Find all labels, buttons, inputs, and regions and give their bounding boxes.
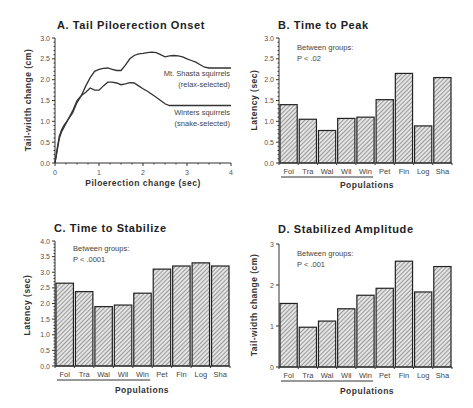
y-tick-label: 2.5 bbox=[40, 284, 50, 291]
x-tick-label: 2 bbox=[141, 169, 145, 176]
bar-pet bbox=[376, 100, 393, 163]
category-label: Wil bbox=[341, 371, 352, 380]
panel-a-line-chart: A. Tail Piloerection Onset Tail-width ch… bbox=[23, 19, 233, 188]
y-tick-label: 1.0 bbox=[40, 331, 50, 338]
panel-c-xlabel: Populations bbox=[115, 385, 169, 395]
category-label: Fol bbox=[283, 167, 294, 176]
category-label: Tra bbox=[302, 371, 314, 380]
y-tick-label: 2.0 bbox=[40, 300, 50, 307]
y-tick-label: 2.5 bbox=[40, 55, 50, 62]
x-tick-label: 0 bbox=[53, 169, 57, 176]
panel-c-bars: FolTraWalWilWinPetFinLogSha0.00.51.01.52… bbox=[40, 238, 230, 381]
bar-fin bbox=[395, 73, 412, 163]
panel-b-title: B. Time to Peak bbox=[278, 19, 369, 31]
panel-c-annotation-1: Between groups: bbox=[73, 244, 129, 253]
y-tick-label: 2.5 bbox=[264, 55, 274, 62]
bar-win bbox=[357, 117, 374, 163]
category-label: Fol bbox=[283, 371, 294, 380]
panel-c-title: C. Time to Stabilize bbox=[54, 222, 167, 234]
bar-sha bbox=[434, 78, 451, 163]
bar-tra bbox=[75, 292, 92, 366]
bar-win bbox=[357, 295, 374, 367]
y-tick-label: 1.5 bbox=[264, 97, 274, 104]
category-label: Fol bbox=[60, 370, 71, 379]
category-label: Fin bbox=[399, 167, 409, 176]
y-tick-label: 0 bbox=[270, 364, 274, 371]
panel-a-xlabel: Piloerection change (sec) bbox=[85, 178, 200, 188]
x-tick-label: 3 bbox=[185, 169, 189, 176]
y-tick-label: 2.0 bbox=[40, 76, 50, 83]
panel-b-annotation-1: Between groups: bbox=[297, 43, 353, 52]
panel-b-annotation-2: P < .02 bbox=[297, 54, 321, 63]
category-label: Pet bbox=[379, 167, 391, 176]
panel-c-bar-chart: C. Time to Stabilize Latency (sec) Popul… bbox=[22, 222, 230, 395]
x-tick-label: 4 bbox=[229, 169, 233, 176]
category-label: Fin bbox=[399, 371, 409, 380]
category-label: Wal bbox=[321, 371, 334, 380]
y-tick-label: 1.5 bbox=[40, 316, 50, 323]
series-label-shasta-1: Mt. Shasta squirrels bbox=[164, 69, 231, 78]
category-label: Sha bbox=[214, 370, 228, 379]
category-label: Wil bbox=[118, 370, 129, 379]
bar-fol bbox=[56, 283, 73, 366]
category-label: Log bbox=[195, 370, 208, 379]
bar-wil bbox=[338, 309, 355, 367]
panel-c-ylabel: Latency (sec) bbox=[22, 275, 32, 336]
panel-d-bar-chart: D. Stabilized Amplitude Tail-width chang… bbox=[249, 223, 452, 396]
bar-wal bbox=[95, 307, 112, 366]
figure: A. Tail Piloerection Onset Tail-width ch… bbox=[0, 0, 473, 408]
panel-d-annotation-2: P < .001 bbox=[297, 260, 325, 269]
y-tick-label: 0.0 bbox=[40, 363, 50, 370]
category-label: Win bbox=[136, 370, 149, 379]
bar-wil bbox=[114, 305, 131, 366]
bar-log bbox=[415, 126, 432, 163]
category-label: Sha bbox=[436, 167, 450, 176]
series-label-winters-1: Winters squirrels bbox=[174, 108, 230, 117]
panel-a-title: A. Tail Piloerection Onset bbox=[57, 19, 205, 31]
y-tick-label: 3.5 bbox=[40, 253, 50, 260]
category-label: Win bbox=[359, 371, 372, 380]
bar-wal bbox=[318, 131, 335, 164]
bar-pet bbox=[153, 269, 170, 366]
y-tick-label: 3.0 bbox=[264, 35, 274, 42]
panel-b-ylabel: Latency (sec) bbox=[249, 70, 259, 131]
panel-d-title: D. Stabilized Amplitude bbox=[278, 223, 414, 235]
bar-sha bbox=[434, 267, 451, 367]
bar-fin bbox=[395, 261, 412, 367]
category-label: Win bbox=[359, 167, 372, 176]
y-tick-label: 2.0 bbox=[264, 76, 274, 83]
x-tick-label: 1 bbox=[97, 169, 101, 176]
y-tick-label: 0.5 bbox=[264, 139, 274, 146]
bar-fol bbox=[280, 303, 297, 367]
y-tick-label: 0.0 bbox=[40, 160, 50, 167]
bar-sha bbox=[212, 266, 229, 366]
y-tick-label: 0.5 bbox=[40, 347, 50, 354]
category-label: Fin bbox=[176, 370, 186, 379]
y-tick-label: 1.0 bbox=[40, 118, 50, 125]
bar-wal bbox=[318, 321, 335, 367]
category-label: Log bbox=[417, 167, 430, 176]
category-label: Tra bbox=[302, 167, 314, 176]
y-tick-label: 3 bbox=[270, 241, 274, 248]
y-tick-label: 3.0 bbox=[40, 269, 50, 276]
category-label: Wil bbox=[341, 167, 352, 176]
bar-tra bbox=[299, 327, 316, 367]
panel-a-series-labels: Mt. Shasta squirrels (relax-selected) Wi… bbox=[164, 69, 231, 128]
panel-a-ylabel: Tail-width change (cm) bbox=[23, 49, 33, 151]
category-label: Pet bbox=[156, 370, 168, 379]
panel-b-xlabel: Populations bbox=[340, 180, 394, 190]
bar-log bbox=[192, 263, 209, 366]
y-tick-label: 1.0 bbox=[264, 118, 274, 125]
category-label: Sha bbox=[436, 371, 450, 380]
panel-d-ylabel: Tail-width change (cm) bbox=[249, 254, 259, 356]
panel-d-annotation-1: Between groups: bbox=[297, 249, 353, 258]
bar-win bbox=[134, 293, 151, 366]
panel-d-xlabel: Populations bbox=[340, 386, 394, 396]
series-label-winters-2: (snake-selected) bbox=[175, 119, 231, 128]
y-tick-label: 1 bbox=[270, 323, 274, 330]
category-label: Pet bbox=[379, 371, 391, 380]
category-label: Tra bbox=[79, 370, 91, 379]
category-label: Wal bbox=[97, 370, 110, 379]
panel-b-bars: FolTraWalWilWinPetFinLogSha0.00.51.01.52… bbox=[264, 35, 452, 178]
y-tick-label: 2 bbox=[270, 282, 274, 289]
